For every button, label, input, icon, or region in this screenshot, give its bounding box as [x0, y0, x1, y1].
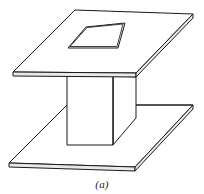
- top-plate-front-edge: [13, 72, 136, 77]
- post-front-face: [67, 76, 113, 145]
- technical-line-drawing: [0, 0, 204, 194]
- figure-caption: (a): [0, 178, 204, 190]
- top-plate: [13, 10, 193, 77]
- figure-container: (a): [0, 0, 204, 194]
